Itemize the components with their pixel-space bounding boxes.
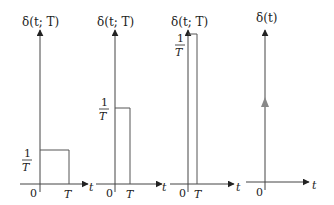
width-label: T	[194, 188, 203, 201]
y-axis-label: δ(t)	[256, 11, 277, 25]
height-label-numerator: 1	[24, 147, 31, 160]
height-label-numerator: 1	[101, 96, 108, 109]
width-label: T	[64, 188, 73, 201]
y-axis-label: δ(t; T)	[22, 15, 59, 29]
height-label-denominator: T	[175, 46, 184, 59]
pulse-rectangle	[40, 150, 69, 184]
height-label-denominator: T	[99, 110, 108, 123]
origin-label: 0	[30, 187, 37, 200]
panel-4: δ(t) 0 t	[246, 11, 317, 199]
height-label-numerator: 1	[177, 32, 184, 45]
pulse-rectangle	[188, 34, 197, 184]
height-label-denominator: T	[22, 161, 31, 174]
panel-1: δ(t; T) 1 T 0 T t	[20, 15, 94, 201]
pulse-rectangle	[115, 108, 130, 184]
origin-label: 0	[106, 187, 113, 200]
impulse-arrow-icon	[261, 97, 269, 107]
width-label: T	[126, 188, 135, 201]
origin-label: 0	[256, 186, 263, 199]
x-axis-label: t	[312, 179, 317, 192]
x-axis-label: t	[236, 181, 241, 194]
delta-function-diagram: δ(t; T) 1 T 0 T t δ(t; T) 1 T 0 T t δ(t;…	[0, 0, 334, 205]
panel-3: δ(t; T) 1 T 0 T t	[170, 15, 241, 201]
y-axis-label: δ(t; T)	[97, 15, 134, 29]
x-axis-label: t	[162, 181, 167, 194]
x-axis-label: t	[89, 181, 94, 194]
origin-label: 0	[179, 187, 186, 200]
panel-2: δ(t; T) 1 T 0 T t	[96, 15, 167, 201]
y-axis-label: δ(t; T)	[171, 15, 208, 29]
